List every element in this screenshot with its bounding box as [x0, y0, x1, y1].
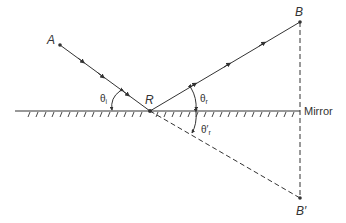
incident-ray-arrow-1: [78, 58, 83, 62]
reflected-ray-arrow-3: [259, 43, 264, 46]
label-R: R: [145, 93, 154, 107]
reflection-diagram: A R B B′ Mirror θi θr θ′r: [0, 0, 346, 223]
label-theta-i: θi: [100, 93, 108, 105]
incident-ray-arrow-3: [123, 91, 128, 95]
label-theta-prime-r: θ′r: [201, 124, 211, 136]
label-theta-r: θr: [200, 93, 209, 105]
point-B: [298, 20, 302, 24]
angle-arc-incidence: [112, 91, 120, 110]
reflected-ray-arrow-2: [224, 64, 229, 67]
label-mirror: Mirror: [304, 105, 333, 117]
mirror-hatching: [28, 112, 294, 117]
reflected-ray-arrow-1: [190, 84, 195, 87]
point-B-prime: [298, 196, 302, 200]
label-B-prime: B′: [296, 204, 307, 218]
point-A: [58, 43, 62, 47]
label-B: B: [295, 5, 303, 19]
label-A: A: [46, 33, 55, 47]
angle-arc-reflection: [191, 88, 196, 110]
incident-ray-arrow-2: [98, 73, 103, 77]
point-R: [148, 109, 152, 113]
angle-arc-image: [192, 112, 196, 133]
virtual-ray: [150, 111, 300, 198]
